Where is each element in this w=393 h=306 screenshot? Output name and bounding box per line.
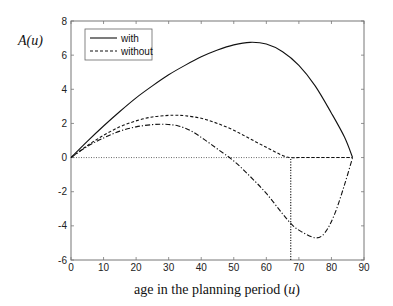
x-tick-label: 70 [293, 262, 305, 273]
x-tick-label: 30 [163, 262, 175, 273]
y-tick-label: 0 [61, 152, 67, 163]
y-tick-label: -2 [58, 186, 67, 197]
x-tick-label: 40 [196, 262, 208, 273]
x-tick-label: 60 [261, 262, 273, 273]
y-tick-label: 6 [61, 50, 67, 61]
x-tick-label: 50 [228, 262, 240, 273]
legend-label-with: with [120, 33, 139, 44]
y-tick-label: 8 [61, 16, 67, 27]
reference-lines [71, 158, 353, 260]
x-tick-label: 10 [98, 262, 110, 273]
series-lines [71, 42, 353, 238]
x-axis-label: age in the planning period (u) [134, 282, 300, 298]
legend-label-without: without [120, 46, 153, 57]
x-tick-label: 20 [131, 262, 143, 273]
y-tick-label: 4 [61, 84, 67, 95]
y-tick-label: -6 [58, 255, 67, 266]
x-tick-label: 90 [358, 262, 370, 273]
line-chart: 0102030405060708090-6-4-202468 A(u) age … [0, 0, 393, 306]
y-tick-label: 2 [61, 118, 67, 129]
x-tick-label: 80 [326, 262, 338, 273]
x-tick-label: 0 [68, 262, 74, 273]
series-line-dashdot [71, 124, 353, 238]
legend: with without [85, 29, 153, 60]
y-axis-label: A(u) [17, 33, 43, 49]
y-tick-label: -4 [58, 220, 67, 231]
series-line-dashed [71, 115, 353, 158]
